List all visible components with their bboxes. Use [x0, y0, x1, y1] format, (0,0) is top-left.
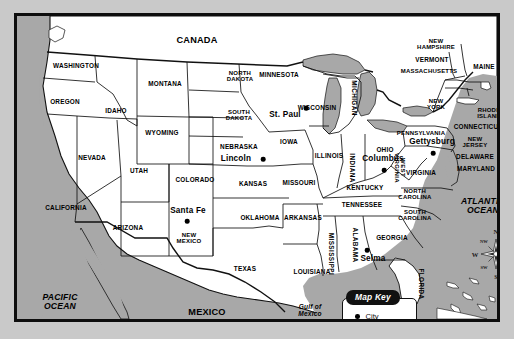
city-dot-icon-selma	[365, 248, 370, 253]
map-geometry	[17, 16, 497, 319]
city-dot-icon	[355, 314, 360, 319]
map-key-title: Map Key	[346, 290, 400, 305]
city-dot-icon-gettysburg	[431, 151, 436, 156]
map-frame: CANADA MEXICO PACIFIC OCEAN ATLANTIC OCE…	[14, 13, 500, 322]
compass-label-nw: NW	[480, 239, 488, 244]
compass-rose: NSEWNENWSESW	[469, 225, 500, 283]
cape-cod	[481, 82, 491, 90]
map-page: CANADA MEXICO PACIFIC OCEAN ATLANTIC OCE…	[0, 0, 514, 339]
city-dot-icon-santa-fe	[185, 219, 190, 224]
compass-label-s: S	[494, 273, 498, 280]
city-dot-icon-lincoln	[261, 157, 266, 162]
compass-label-sw: SW	[480, 265, 487, 270]
compass-label-w: W	[472, 251, 479, 258]
city-dot-icon-columbus	[382, 168, 387, 173]
map-key-item-city: City	[355, 312, 379, 321]
city-dot-icon-st-paul	[304, 106, 309, 111]
map-key-item-label: City	[366, 312, 379, 321]
compass-label-n: N	[494, 228, 499, 235]
map-key[interactable]: Map Key City	[342, 290, 417, 322]
